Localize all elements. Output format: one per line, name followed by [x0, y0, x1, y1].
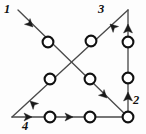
diagram-canvas: 1 3 2 4 — [0, 0, 146, 134]
node-edge-2-lower[interactable] — [123, 73, 134, 84]
node-edge-1-upper[interactable] — [43, 37, 54, 48]
diagram-svg — [0, 0, 146, 134]
edge-label-2: 2 — [133, 94, 139, 107]
edge-label-4: 4 — [22, 120, 28, 133]
node-edge-4-right[interactable] — [85, 112, 96, 123]
arrowhead-edge-1-upper — [24, 19, 35, 30]
node-edge-3-lower[interactable] — [45, 74, 56, 85]
node-corner-bottom-right[interactable] — [123, 112, 134, 123]
node-edge-4-left[interactable] — [45, 112, 56, 123]
node-edge-2-upper[interactable] — [123, 37, 134, 48]
arrowhead-edge-1-lower — [98, 90, 109, 101]
edge-label-3: 3 — [98, 3, 104, 16]
edge-label-1: 1 — [4, 3, 10, 16]
arrowhead-edge-3-lower — [27, 98, 38, 109]
node-edge-3-upper[interactable] — [86, 36, 97, 47]
node-edge-1-lower[interactable] — [85, 74, 96, 85]
